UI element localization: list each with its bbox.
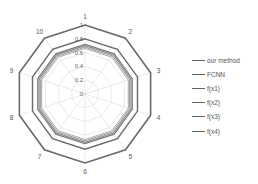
legend-label: f(x2) [207, 99, 220, 106]
axis-label: 9 [10, 67, 14, 74]
legend-line-icon [192, 102, 205, 103]
axis-label: 5 [129, 153, 133, 160]
tick-label: 0.4 [75, 63, 84, 69]
axis-label: 10 [36, 28, 44, 35]
grid-spoke [19, 73, 85, 94]
tick-label: 0.6 [75, 50, 84, 56]
legend-line-icon [192, 116, 205, 117]
tick-label: 0.2 [75, 77, 84, 83]
grid-spoke [85, 94, 151, 115]
legend-item: FCNN [192, 67, 240, 81]
legend-item: our method [192, 53, 240, 67]
legend-line-icon [192, 131, 205, 132]
axis-label: 1 [83, 13, 87, 20]
legend-item: f(x1) [192, 81, 240, 95]
legend-label: FCNN [207, 71, 225, 78]
legend-line-icon [192, 74, 205, 75]
legend: our method FCNN f(x1) f(x2) f(x3) f(x4) [192, 53, 240, 138]
legend-item: f(x4) [192, 124, 240, 138]
legend-label: f(x4) [207, 128, 220, 135]
axis-label: 7 [38, 153, 42, 160]
legend-line-icon [192, 88, 205, 89]
legend-label: our method [207, 57, 240, 64]
grid-spoke [19, 94, 85, 115]
grid-spoke [85, 73, 151, 94]
legend-line-icon [192, 60, 205, 61]
axis-label: 4 [157, 114, 161, 121]
legend-item: f(x2) [192, 96, 240, 110]
tick-label: 0.8 [75, 36, 84, 42]
axis-label: 3 [157, 67, 161, 74]
axis-label: 8 [10, 114, 14, 121]
legend-label: f(x3) [207, 113, 220, 120]
axis-label: 6 [83, 168, 87, 175]
axis-label: 2 [129, 28, 133, 35]
legend-item: f(x3) [192, 110, 240, 124]
tick-label: 0 [80, 91, 84, 97]
legend-label: f(x1) [207, 85, 220, 92]
